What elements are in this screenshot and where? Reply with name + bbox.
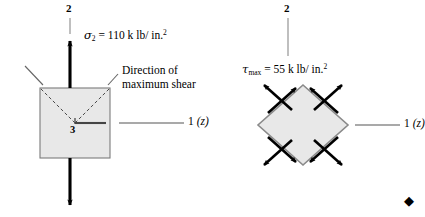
tau-subscript: max: [248, 68, 261, 77]
right-axis-z-text: (z): [413, 117, 425, 129]
left-axis-2-label: 2: [66, 2, 72, 15]
left-axis-1-text: 1: [188, 115, 194, 127]
tau-units-exponent: 2: [323, 62, 327, 71]
right-axis-1-text: 1: [404, 117, 410, 129]
sigma-subscript: 2: [92, 34, 96, 43]
max-shear-annotation: Direction of maximum shear: [122, 63, 196, 92]
tau-max-stress-label: τmax = 55 k lb/ in.2: [242, 63, 327, 78]
max-shear-annotation-line2: maximum shear: [122, 77, 196, 91]
axis-3-label: 3: [70, 124, 75, 136]
right-element-group: [258, 18, 400, 165]
shear-leader-left: [25, 66, 43, 85]
right-axis-1z-label: 1 (z): [404, 117, 425, 131]
left-element-group: [25, 18, 184, 205]
tau-equals: =: [264, 63, 271, 75]
left-axis-z-text: (z): [197, 115, 209, 127]
tau-value: 55: [274, 63, 286, 75]
sigma-equals: =: [98, 29, 105, 41]
tau-units: k lb/ in.: [288, 63, 323, 75]
max-shear-annotation-line1: Direction of: [122, 63, 196, 77]
sigma-units-exponent: 2: [163, 28, 167, 37]
left-axis-1z-label: 1 (z): [188, 115, 209, 129]
sigma-value: 110: [108, 29, 125, 41]
sigma-symbol: σ: [84, 28, 92, 42]
max-shear-element-diamond: [258, 85, 348, 165]
sigma-units: k lb/ in.: [128, 29, 163, 41]
sigma2-stress-label: σ2 = 110 k lb/ in.2: [84, 29, 167, 44]
shear-leader-right: [108, 74, 118, 85]
end-of-example-marker: ◆: [404, 194, 414, 207]
right-axis-2-label: 2: [284, 2, 290, 15]
